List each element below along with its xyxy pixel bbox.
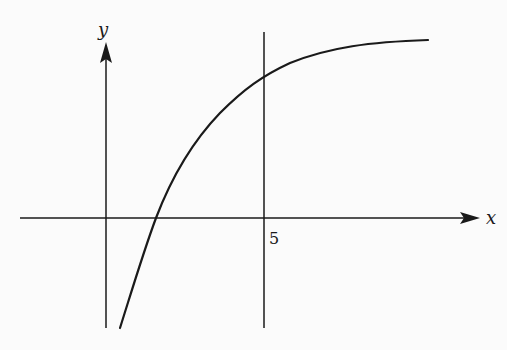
y-axis-label: y bbox=[97, 19, 109, 40]
vertical-line-label: 5 bbox=[269, 229, 279, 248]
x-axis-label: x bbox=[486, 207, 496, 228]
x-axis bbox=[20, 212, 480, 224]
function-curve bbox=[120, 40, 428, 328]
function-graph: x y 5 bbox=[0, 0, 507, 350]
y-axis bbox=[100, 42, 112, 328]
